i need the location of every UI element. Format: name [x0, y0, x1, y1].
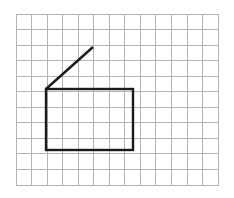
figure-svg	[0, 0, 234, 198]
figure-canvas	[0, 0, 234, 198]
